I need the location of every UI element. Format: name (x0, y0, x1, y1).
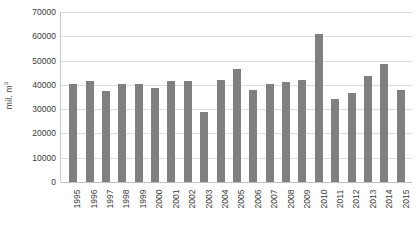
x-label-slot: 2003 (195, 184, 211, 226)
bar[interactable] (282, 82, 290, 182)
bar[interactable] (69, 84, 77, 182)
x-label-slot: 1996 (80, 184, 96, 226)
x-label-slot: 2006 (245, 184, 261, 226)
x-label-slot: 1997 (97, 184, 113, 226)
x-axis-tick-labels: 1995199619971998199920002001200220032004… (60, 184, 412, 226)
bar-slot (81, 12, 97, 182)
x-label-slot: 2008 (277, 184, 293, 226)
bar[interactable] (397, 90, 405, 182)
bar-slot (163, 12, 179, 182)
bar[interactable] (380, 64, 388, 182)
bar-slot (376, 12, 392, 182)
bar-slot (65, 12, 81, 182)
x-label-slot: 2012 (343, 184, 359, 226)
y-axis-tick-label: 10000 (32, 153, 56, 163)
bar[interactable] (118, 84, 126, 182)
x-label-slot: 1998 (113, 184, 129, 226)
y-axis-tick-label: 0 (51, 177, 56, 187)
x-label-slot: 1999 (130, 184, 146, 226)
bar[interactable] (86, 81, 94, 182)
x-label-slot: 2011 (327, 184, 343, 226)
bar-slot (212, 12, 228, 182)
bar-slot (131, 12, 147, 182)
bar-slot (294, 12, 310, 182)
bar[interactable] (348, 93, 356, 182)
bar[interactable] (102, 91, 110, 182)
bar[interactable] (135, 84, 143, 182)
x-label-slot: 2013 (360, 184, 376, 226)
bar-slot (98, 12, 114, 182)
x-label-slot: 2014 (376, 184, 392, 226)
y-axis-tick-label: 60000 (32, 31, 56, 41)
axis-baseline (61, 182, 412, 183)
bar-slot (180, 12, 196, 182)
y-axis-tick-label: 70000 (32, 7, 56, 17)
bar-series (61, 12, 412, 182)
x-label-slot: 2009 (294, 184, 310, 226)
x-label-slot: 2010 (310, 184, 326, 226)
y-axis-tick-label: 40000 (32, 80, 56, 90)
bar[interactable] (217, 80, 225, 182)
y-axis-tick-label: 20000 (32, 128, 56, 138)
bar[interactable] (364, 76, 372, 182)
plot-area (60, 12, 412, 182)
bar[interactable] (331, 99, 339, 182)
y-axis-title-text: mil. m (4, 85, 14, 109)
bar-slot (327, 12, 343, 182)
x-label-slot: 2004 (212, 184, 228, 226)
x-label-slot: 2015 (392, 184, 408, 226)
bar-slot (360, 12, 376, 182)
x-label-slot: 2000 (146, 184, 162, 226)
bar-chart: mil. m3 70000600005000040000300002000010… (0, 0, 419, 226)
bar-slot (147, 12, 163, 182)
bar[interactable] (167, 81, 175, 183)
y-axis-tick-labels: 700006000050000400003000020000100000 (16, 12, 58, 182)
bar[interactable] (184, 81, 192, 182)
bar-slot (278, 12, 294, 182)
bar-slot (114, 12, 130, 182)
y-axis-tick-label: 50000 (32, 56, 56, 66)
y-axis-title-superscript: 3 (4, 81, 10, 85)
bar-slot (196, 12, 212, 182)
bar-slot (343, 12, 359, 182)
x-label-slot: 2007 (261, 184, 277, 226)
bar-slot (229, 12, 245, 182)
bar-slot (311, 12, 327, 182)
x-label-slot: 2005 (228, 184, 244, 226)
bar[interactable] (249, 90, 257, 182)
bar[interactable] (233, 69, 241, 182)
bar[interactable] (266, 84, 274, 182)
bar-slot (393, 12, 409, 182)
bar-slot (245, 12, 261, 182)
bar[interactable] (151, 88, 159, 182)
bar-slot (262, 12, 278, 182)
y-axis-tick-label: 30000 (32, 104, 56, 114)
x-axis-tick-label: 2015 (401, 190, 411, 209)
bar[interactable] (200, 112, 208, 182)
x-label-slot: 1995 (64, 184, 80, 226)
x-label-slot: 2001 (163, 184, 179, 226)
x-label-slot: 2002 (179, 184, 195, 226)
bar[interactable] (315, 34, 323, 182)
bar[interactable] (298, 80, 306, 182)
